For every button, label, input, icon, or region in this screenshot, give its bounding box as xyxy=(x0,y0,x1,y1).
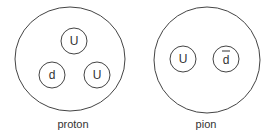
proton-quark-d: d xyxy=(39,62,65,88)
quark-label: U xyxy=(93,68,102,82)
quark-label: U xyxy=(179,52,188,66)
proton-quark-u-right: U xyxy=(84,62,110,88)
proton-boundary xyxy=(15,7,125,111)
proton-caption: proton xyxy=(57,118,88,130)
pion-quark-anti-d: d xyxy=(213,46,239,72)
quark-label: d xyxy=(223,53,230,67)
quark-label: d xyxy=(49,68,56,82)
pion-quark-u: U xyxy=(170,46,196,72)
pion-group: U d pion xyxy=(154,7,260,130)
proton-group: U d U proton xyxy=(15,7,125,130)
proton-quark-u-top: U xyxy=(61,28,87,54)
pion-caption: pion xyxy=(196,118,217,130)
quark-label: U xyxy=(70,34,79,48)
quark-composition-diagram: U d U proton U d pion xyxy=(0,0,269,138)
